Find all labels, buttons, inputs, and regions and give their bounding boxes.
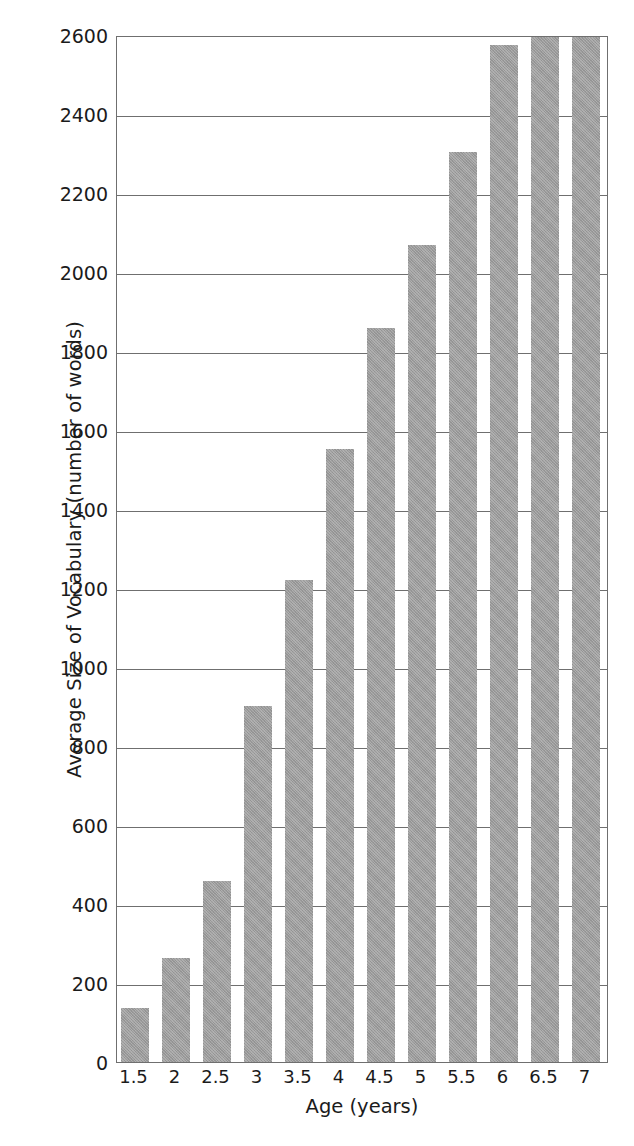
y-tick-label: 200 [34, 973, 108, 995]
x-tick-label: 7 [579, 1066, 590, 1087]
x-tick-label: 5.5 [447, 1066, 476, 1087]
bar [285, 580, 313, 1062]
x-axis-title: Age (years) [116, 1095, 608, 1118]
y-tick-label: 1400 [34, 499, 108, 521]
vocabulary-growth-bar-chart: Average Size of Vocabulary (number of wo… [0, 0, 634, 1146]
bar [572, 36, 600, 1062]
bar [490, 45, 518, 1062]
plot-area [116, 36, 608, 1063]
y-tick-label: 800 [34, 736, 108, 758]
y-tick-label: 2600 [34, 25, 108, 47]
y-tick-label: 1000 [34, 657, 108, 679]
y-tick-label: 2000 [34, 262, 108, 284]
x-tick-label: 4 [333, 1066, 344, 1087]
bar [531, 36, 559, 1062]
bar [203, 881, 231, 1062]
y-tick-label: 2200 [34, 183, 108, 205]
x-tick-label: 3.5 [283, 1066, 312, 1087]
bar-series [117, 37, 607, 1062]
y-tick-label: 1200 [34, 578, 108, 600]
x-axis-tick-labels: 1.522.533.544.555.566.57 [116, 1066, 608, 1092]
bar [408, 245, 436, 1062]
x-tick-label: 3 [251, 1066, 262, 1087]
y-tick-label: 600 [34, 815, 108, 837]
y-tick-label: 1600 [34, 420, 108, 442]
bar [326, 449, 354, 1062]
bar [162, 958, 190, 1062]
x-tick-label: 2.5 [201, 1066, 230, 1087]
x-tick-label: 5 [415, 1066, 426, 1087]
y-tick-label: 400 [34, 894, 108, 916]
y-tick-label: 1800 [34, 341, 108, 363]
x-tick-label: 4.5 [365, 1066, 394, 1087]
x-tick-label: 6 [497, 1066, 508, 1087]
bar [121, 1008, 149, 1062]
bar [244, 706, 272, 1062]
y-axis-tick-labels: 0200400600800100012001400160018002000220… [28, 36, 108, 1063]
x-tick-label: 2 [169, 1066, 180, 1087]
y-tick-label: 2400 [34, 104, 108, 126]
bar [449, 152, 477, 1062]
x-tick-label: 1.5 [119, 1066, 148, 1087]
y-tick-label: 0 [34, 1052, 108, 1074]
bar [367, 328, 395, 1062]
x-tick-label: 6.5 [529, 1066, 558, 1087]
